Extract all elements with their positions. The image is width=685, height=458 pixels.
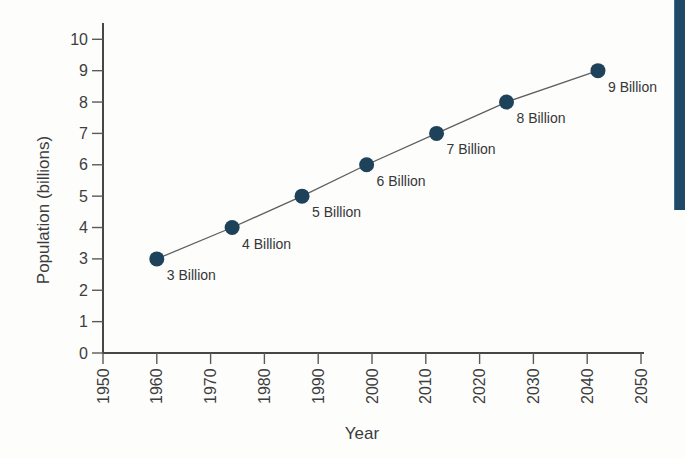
x-tick-label: 1990: [310, 368, 327, 404]
data-point-label: 9 Billion: [608, 79, 657, 95]
x-axis-title: Year: [345, 424, 379, 444]
chart-canvas: 0123456789101950196019701980199020002010…: [0, 0, 685, 458]
y-axis-title: Population (billions): [34, 136, 54, 284]
data-point: [225, 220, 240, 235]
y-tick-label: 8: [79, 94, 88, 111]
data-point: [149, 251, 164, 266]
population-line-chart: 0123456789101950196019701980199020002010…: [0, 0, 685, 458]
data-point-label: 7 Billion: [447, 141, 496, 157]
y-tick-label: 9: [79, 62, 88, 79]
y-tick-label: 1: [79, 313, 88, 330]
scanned-textbook-page: 0123456789101950196019701980199020002010…: [0, 0, 685, 458]
y-tick-label: 0: [79, 345, 88, 362]
data-point-label: 4 Billion: [242, 236, 291, 252]
x-tick-label: 2000: [364, 368, 381, 404]
x-tick-label: 1960: [148, 368, 165, 404]
x-tick-label: 1950: [95, 368, 112, 404]
data-point: [429, 126, 444, 141]
x-tick-label: 2020: [471, 368, 488, 404]
data-point: [295, 189, 310, 204]
data-line: [157, 71, 598, 259]
y-tick-label: 4: [79, 219, 88, 236]
y-tick-label: 2: [79, 282, 88, 299]
x-tick-label: 1970: [202, 368, 219, 404]
data-point-label: 5 Billion: [312, 204, 361, 220]
data-point: [590, 63, 605, 78]
x-tick-label: 2010: [417, 368, 434, 404]
y-tick-label: 6: [79, 156, 88, 173]
data-point: [359, 157, 374, 172]
x-tick-label: 2030: [525, 368, 542, 404]
data-point: [499, 95, 514, 110]
y-tick-label: 7: [79, 125, 88, 142]
y-tick-label: 10: [70, 31, 88, 48]
x-tick-label: 1980: [256, 368, 273, 404]
x-tick-label: 2040: [579, 368, 596, 404]
page-edge-strip: [674, 0, 685, 210]
y-tick-label: 3: [79, 250, 88, 267]
data-point-label: 3 Billion: [167, 267, 216, 283]
data-point-label: 6 Billion: [377, 173, 426, 189]
y-tick-label: 5: [79, 188, 88, 205]
data-point-label: 8 Billion: [517, 110, 566, 126]
x-tick-label: 2050: [633, 368, 650, 404]
